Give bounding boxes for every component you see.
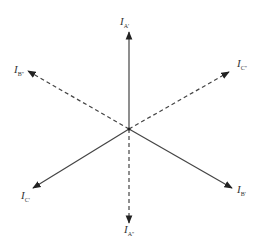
label-ib-prime: IB' (237, 184, 246, 197)
label-ic-double-prime: IC'' (237, 58, 247, 71)
phasor-ib-prime (129, 129, 232, 188)
label-ia-double-prime: IA'' (124, 224, 134, 237)
label-ia-prime: IA' (120, 16, 129, 29)
phasor-ib-double-prime (28, 71, 129, 129)
origin-point (128, 128, 131, 131)
phasor-ic-prime (33, 129, 129, 188)
label-ic-prime: IC' (21, 190, 30, 203)
phasor-ic-double-prime (129, 72, 229, 129)
label-ib-double-prime: IB'' (14, 64, 24, 77)
phasor-diagram (0, 0, 260, 245)
